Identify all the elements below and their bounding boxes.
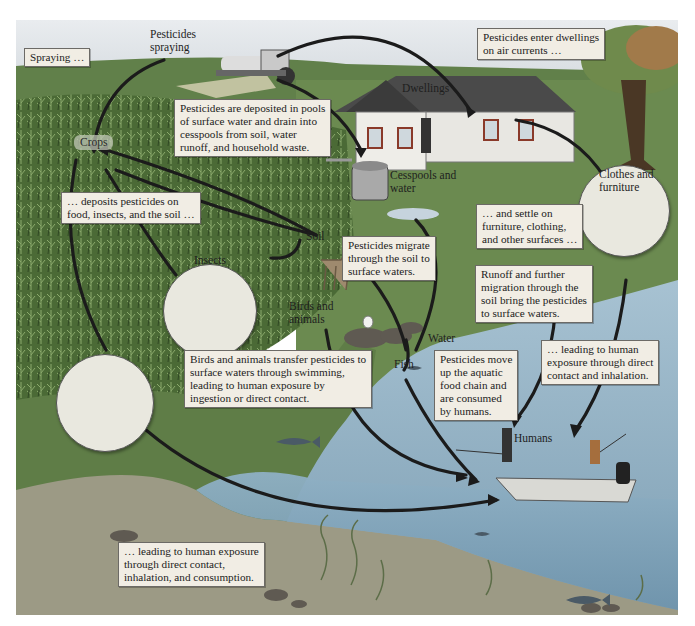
callout-deposits-food: … deposits pesticides on food, insects, …	[61, 192, 201, 224]
insects-inset-circle	[163, 264, 257, 358]
label-water: Water	[428, 332, 455, 345]
label-humans: Humans	[514, 432, 552, 445]
gull-illustration	[363, 316, 373, 328]
callout-spraying: Spraying …	[24, 48, 90, 67]
callout-enter-dwellings: Pesticides enter dwellings on air curren…	[477, 28, 605, 60]
label-crops: Crops	[74, 135, 113, 150]
callout-exposure-consumption: … leading to human exposure through dire…	[118, 542, 265, 587]
callout-settle-surfaces: … and settle on furniture, clothing, and…	[476, 204, 583, 249]
corn-inset-circle	[56, 354, 154, 452]
label-pesticides-spraying: Pesticides spraying	[150, 28, 196, 54]
callout-birds-transfer: Birds and animals transfer pesticides to…	[184, 350, 372, 408]
label-birds-animals: Birds and animals	[289, 300, 333, 326]
label-dwellings: Dwellings	[402, 82, 449, 95]
label-insects: Insects	[194, 254, 226, 267]
pesticide-pathways-diagram: Pesticides spraying Dwellings Crops Cess…	[0, 0, 695, 626]
label-clothes-furniture: Clothes and furniture	[599, 168, 654, 194]
label-soil: Soil	[306, 230, 325, 243]
label-cesspools-water: Cesspools and water	[390, 169, 456, 195]
label-fish: Fish	[394, 358, 414, 371]
callout-food-chain: Pesticides move up the aquatic food chai…	[434, 350, 518, 421]
callout-exposure-contact-inhalation: … leading to human exposure through dire…	[541, 340, 659, 385]
callout-runoff: Runoff and further migration through the…	[475, 265, 593, 323]
callout-migrate-soil: Pesticides migrate through the soil to s…	[342, 236, 436, 281]
illustration-scene: Pesticides spraying Dwellings Crops Cess…	[16, 20, 678, 615]
callout-deposited-pools: Pesticides are deposited in pools of sur…	[174, 99, 331, 157]
